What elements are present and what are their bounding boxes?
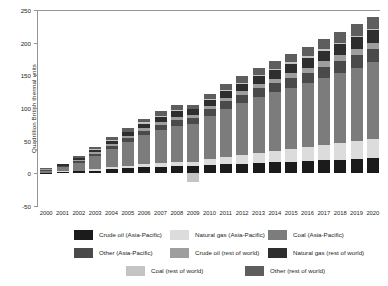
x-axis-tick-label: 2015 (285, 210, 298, 216)
legend-item[interactable]: Natural gas (rest of world) (268, 248, 364, 258)
y-axis-tick (34, 206, 38, 207)
bar-segment (236, 103, 248, 155)
bar-segment (253, 153, 265, 163)
legend-color-swatch (268, 230, 287, 240)
bar-segment (220, 157, 232, 164)
x-axis-tick-label: 2009 (187, 210, 200, 216)
legend-item-label: Coal (Asia-Pacific) (293, 230, 344, 240)
bar-group[interactable] (334, 10, 346, 206)
bar-segment (302, 58, 314, 68)
bar-segment (106, 169, 118, 173)
bar-positive-stack (220, 84, 232, 174)
bar-segment (171, 166, 183, 173)
bar-positive-stack (89, 147, 101, 173)
bar-segment (122, 168, 134, 173)
legend-item[interactable]: Other (Asia-Pacific) (74, 248, 153, 258)
bar-group[interactable] (171, 10, 183, 206)
bar-segment (89, 156, 101, 169)
bar-segment (334, 73, 346, 144)
bar-group[interactable] (220, 10, 232, 206)
bar-group[interactable] (302, 10, 314, 206)
bar-group[interactable] (57, 10, 69, 206)
y-axis-tick-label: 250 (0, 7, 31, 14)
bar-segment (73, 171, 85, 173)
bar-segment (220, 164, 232, 173)
bar-series-container (37, 10, 380, 206)
bar-segment (318, 160, 330, 173)
bar-group[interactable] (106, 10, 118, 206)
bar-segment (236, 155, 248, 163)
x-axis-tick-label: 2012 (236, 210, 249, 216)
bar-segment (269, 61, 281, 69)
bar-group[interactable] (89, 10, 101, 206)
bar-group[interactable] (187, 10, 199, 206)
bar-group[interactable] (236, 10, 248, 206)
bar-group[interactable] (285, 10, 297, 206)
legend-item[interactable]: Other (rest of world) (245, 266, 325, 276)
bar-segment (285, 88, 297, 149)
legend-item[interactable]: Natural gas (Asia-Pacific) (170, 230, 265, 240)
bar-segment (236, 95, 248, 103)
legend-color-swatch (74, 248, 93, 258)
legend-item-label: Crude oil (Asia-Pacific) (99, 230, 162, 240)
bar-segment (367, 158, 379, 173)
bar-positive-stack (204, 94, 216, 174)
bar-segment (204, 116, 216, 159)
x-axis-tick-label: 2011 (220, 210, 232, 216)
bar-segment (285, 162, 297, 174)
legend-item-label: Natural gas (rest of world) (293, 248, 364, 258)
bar-segment (302, 147, 314, 161)
bar-segment (73, 163, 85, 171)
bar-negative-stack (187, 173, 199, 182)
x-axis-tick-label: 2007 (154, 210, 167, 216)
bar-group[interactable] (138, 10, 150, 206)
bar-positive-stack (285, 54, 297, 174)
x-axis-tick-label: 2016 (301, 210, 314, 216)
bar-group[interactable] (73, 10, 85, 206)
x-axis-tick-label: 2002 (72, 210, 85, 216)
bar-segment (269, 92, 281, 151)
x-axis-tick-label: 2005 (121, 210, 134, 216)
bar-group[interactable] (122, 10, 134, 206)
y-axis-tick-label: -50 (0, 203, 31, 210)
bar-positive-stack (187, 105, 199, 174)
bar-group[interactable] (204, 10, 216, 206)
bar-segment (253, 68, 265, 75)
legend-color-swatch (245, 266, 264, 276)
bar-group[interactable] (351, 10, 363, 206)
bar-group[interactable] (318, 10, 330, 206)
bar-segment (285, 149, 297, 161)
bar-segment (155, 167, 167, 174)
bar-segment (367, 30, 379, 42)
bar-segment (40, 173, 52, 174)
bar-positive-stack (171, 105, 183, 173)
bar-group[interactable] (367, 10, 379, 206)
legend-item-label: Other (rest of world) (270, 266, 325, 276)
stacked-bar-chart: Quadrillion British thermal units -50050… (0, 0, 388, 286)
x-axis-tick-label: 2013 (252, 210, 265, 216)
legend-item[interactable]: Crude oil (Asia-Pacific) (74, 230, 162, 240)
bar-segment (204, 165, 216, 173)
bar-positive-stack (351, 24, 363, 173)
legend-item[interactable]: Coal (rest of world) (126, 266, 203, 276)
x-axis-tick-label: 2008 (170, 210, 183, 216)
legend-item[interactable]: Coal (Asia-Pacific) (268, 230, 344, 240)
bar-group[interactable] (40, 10, 52, 206)
bar-segment (269, 83, 281, 92)
bar-segment (367, 49, 379, 62)
x-axis-tick-label: 2010 (203, 210, 216, 216)
bar-group[interactable] (269, 10, 281, 206)
x-axis-tick-label: 2004 (105, 210, 118, 216)
plot-area: -50050100150200250 (37, 10, 380, 206)
bar-segment (253, 163, 265, 173)
x-axis-tick-label: 2001 (56, 210, 69, 216)
bar-group[interactable] (253, 10, 265, 206)
x-axis-tick-label: 2003 (89, 210, 102, 216)
bar-group[interactable] (155, 10, 167, 206)
bar-segment (285, 64, 297, 73)
y-axis-tick-label: 0 (0, 170, 31, 177)
legend-item[interactable]: Crude oil (rest of world) (170, 248, 259, 258)
bar-positive-stack (106, 137, 118, 173)
bar-segment (367, 17, 379, 29)
legend-color-swatch (170, 248, 189, 258)
